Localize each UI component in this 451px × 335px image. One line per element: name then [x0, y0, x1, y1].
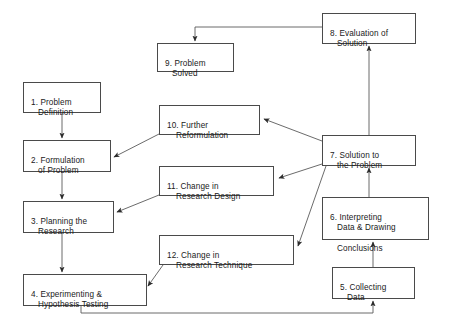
node-3-line-1: 3. Planning the: [31, 217, 87, 226]
node-7-line-1: 7. Solution to: [330, 151, 379, 160]
node-6-line-3: Conclusions: [330, 244, 428, 255]
flowchart-node-evaluation-of-solution[interactable]: 8. Evaluation of Solution: [322, 13, 416, 44]
flowchart-node-further-reformulation[interactable]: 10. Further Reformulation: [159, 105, 260, 135]
node-3-line-2: Research: [31, 227, 113, 238]
flowchart-canvas: 1. Problem Definition 2. Formulation of …: [0, 0, 451, 335]
node-1-line-2: Definition: [31, 108, 100, 119]
node-12-line-2: Research Technique: [167, 261, 293, 272]
node-2-line-1: 2. Formulation: [31, 156, 85, 165]
flowchart-node-change-in-research-design[interactable]: 11. Change in Research Design: [159, 166, 274, 196]
node-8-line-1: 8. Evaluation of: [330, 29, 388, 38]
edge-11-to-3: [117, 195, 159, 212]
node-4-line-2: Hypothesis Testing: [31, 300, 146, 311]
flowchart-node-experimenting-hypothesis-testing[interactable]: 4. Experimenting & Hypothesis Testing: [23, 274, 147, 306]
node-10-line-1: 10. Further: [167, 121, 208, 130]
flowchart-node-solution-to-the-problem[interactable]: 7. Solution to the Problem: [322, 135, 416, 166]
flowchart-node-formulation-of-problem[interactable]: 2. Formulation of Problem: [23, 140, 111, 172]
node-8-line-2: Solution: [330, 39, 415, 50]
node-1-line-1: 1. Problem: [31, 98, 72, 107]
flowchart-node-change-in-research-technique[interactable]: 12. Change in Research Technique: [159, 235, 294, 265]
edge-12-to-4: [148, 265, 163, 286]
node-6-line-1: 6. Interpreting: [330, 213, 382, 222]
node-9-line-2: Solved: [165, 69, 233, 80]
node-12-line-1: 12. Change in: [167, 251, 219, 260]
flowchart-node-collecting-data[interactable]: 5. Collecting Data: [332, 267, 415, 299]
node-10-line-2: Reformulation: [167, 131, 259, 142]
flowchart-node-problem-solved[interactable]: 9. Problem Solved: [157, 43, 234, 72]
edge-8-to-9: [195, 27, 322, 41]
node-5-line-1: 5. Collecting: [340, 283, 386, 292]
node-6-line-2: Data & Drawing: [330, 223, 428, 234]
node-2-line-2: of Problem: [31, 166, 110, 177]
flowchart-node-planning-the-research[interactable]: 3. Planning the Research: [23, 201, 114, 233]
node-11-line-1: 11. Change in: [167, 182, 219, 191]
node-5-line-2: Data: [340, 293, 414, 304]
edge-10-to-2: [114, 134, 159, 157]
node-9-line-1: 9. Problem: [165, 59, 206, 68]
edge-7-to-11: [279, 164, 322, 178]
node-11-line-2: Research Design: [167, 192, 273, 203]
flowchart-node-interpreting-data[interactable]: 6. Interpreting Data & Drawing Conclusio…: [322, 197, 429, 240]
flowchart-node-problem-definition[interactable]: 1. Problem Definition: [23, 82, 101, 113]
edge-7-to-10: [264, 119, 322, 141]
node-7-line-2: the Problem: [330, 161, 415, 172]
node-4-line-1: 4. Experimenting &: [31, 290, 102, 299]
